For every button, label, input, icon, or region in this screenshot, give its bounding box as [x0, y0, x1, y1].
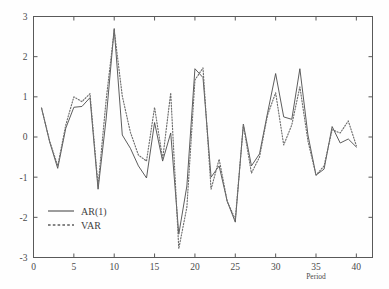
- y-tick-label: 0: [23, 132, 28, 142]
- y-tick-label: -1: [20, 173, 28, 183]
- y-tick-label: 2: [23, 52, 28, 62]
- x-tick-label: 20: [190, 262, 200, 272]
- x-axis-ticks: 0510152025303540: [31, 17, 361, 272]
- x-axis-label: Period: [306, 272, 326, 281]
- chart-legend: AR(1)VAR: [48, 206, 107, 231]
- x-tick-label: 30: [271, 262, 281, 272]
- x-tick-label: 10: [109, 262, 119, 272]
- x-tick-label: 15: [150, 262, 160, 272]
- x-tick-label: 5: [71, 262, 76, 272]
- line-chart: -3-2-10123 0510152025303540 Period AR(1)…: [0, 0, 389, 289]
- y-tick-label: -2: [20, 213, 28, 223]
- x-tick-label: 40: [352, 262, 362, 272]
- x-tick-label: 35: [311, 262, 321, 272]
- x-tick-label: 0: [31, 262, 36, 272]
- y-tick-label: -3: [20, 253, 28, 263]
- y-tick-label: 3: [23, 12, 28, 22]
- y-tick-label: 1: [23, 92, 28, 102]
- legend-label-var: VAR: [81, 220, 101, 231]
- chart-figure: -3-2-10123 0510152025303540 Period AR(1)…: [0, 0, 389, 289]
- series-line-ar-1: [42, 29, 357, 235]
- legend-label-ar-1: AR(1): [81, 206, 107, 218]
- x-tick-label: 25: [231, 262, 241, 272]
